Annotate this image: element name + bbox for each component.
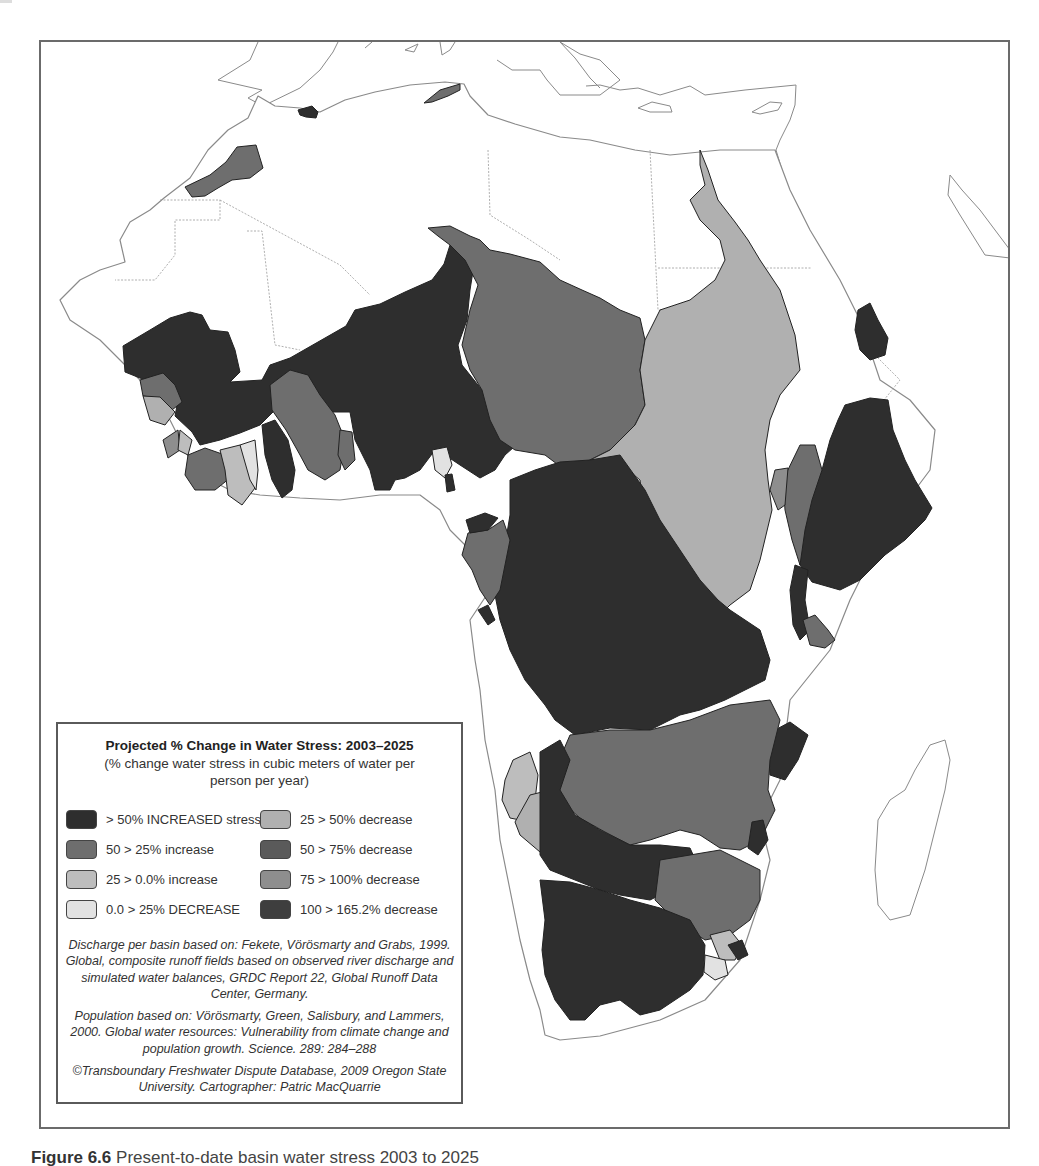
legend-row: > 50% INCREASED stress 25 > 50% decrease: [66, 810, 458, 840]
legend-swatch: [260, 810, 291, 829]
legend-swatch: [260, 840, 291, 859]
legend-row: 0.0 > 25% DECREASE 100 > 165.2% decrease: [66, 900, 458, 930]
figure-caption-text: Present-to-date basin water stress 2003 …: [116, 1148, 479, 1166]
map-legend: Projected % Change in Water Stress: 2003…: [56, 722, 463, 1104]
legend-swatch: [260, 900, 291, 919]
legend-label: 75 > 100% decrease: [300, 872, 420, 887]
legend-item: 50 > 25% increase: [66, 840, 214, 859]
legend-label: 50 > 75% decrease: [300, 842, 412, 857]
legend-row: 25 > 0.0% increase 75 > 100% decrease: [66, 870, 458, 900]
legend-label: 25 > 50% decrease: [300, 812, 412, 827]
legend-label: 25 > 0.0% increase: [106, 872, 218, 887]
legend-swatch: [66, 900, 97, 919]
legend-item: 100 > 165.2% decrease: [260, 900, 438, 919]
legend-title: Projected % Change in Water Stress: 2003…: [58, 738, 461, 753]
legend-item: 25 > 50% decrease: [260, 810, 412, 829]
legend-label: 0.0 > 25% DECREASE: [106, 902, 240, 917]
credit-copyright: ©Transboundary Freshwater Dispute Databa…: [64, 1063, 455, 1096]
madagascar: [875, 740, 950, 920]
figure-caption: Figure 6.6 Present-to-date basin water s…: [31, 1148, 479, 1166]
legend-swatch: [66, 870, 97, 889]
legend-item: 25 > 0.0% increase: [66, 870, 218, 889]
legend-item: 75 > 100% decrease: [260, 870, 420, 889]
legend-item: 0.0 > 25% DECREASE: [66, 900, 240, 919]
figure-label: Figure 6.6: [31, 1148, 111, 1166]
legend-swatch: [260, 870, 291, 889]
legend-label: 100 > 165.2% decrease: [300, 902, 438, 917]
legend-swatch: [66, 810, 97, 829]
basin-liberia-1: [163, 430, 180, 458]
legend-item: 50 > 75% decrease: [260, 840, 412, 859]
legend-credits: Discharge per basin based on: Fekete, Vö…: [64, 937, 455, 1102]
legend-label: > 50% INCREASED stress: [106, 812, 261, 827]
credit-population: Population based on: Vörösmarty, Green, …: [64, 1008, 455, 1057]
legend-label: 50 > 25% increase: [106, 842, 214, 857]
credit-discharge: Discharge per basin based on: Fekete, Vö…: [64, 937, 455, 1002]
legend-subtitle: (% change water stress in cubic meters o…: [88, 755, 431, 789]
legend-row: 50 > 25% increase 50 > 75% decrease: [66, 840, 458, 870]
legend-grid: > 50% INCREASED stress 25 > 50% decrease…: [66, 810, 458, 930]
legend-swatch: [66, 840, 97, 859]
legend-item: > 50% INCREASED stress: [66, 810, 261, 829]
